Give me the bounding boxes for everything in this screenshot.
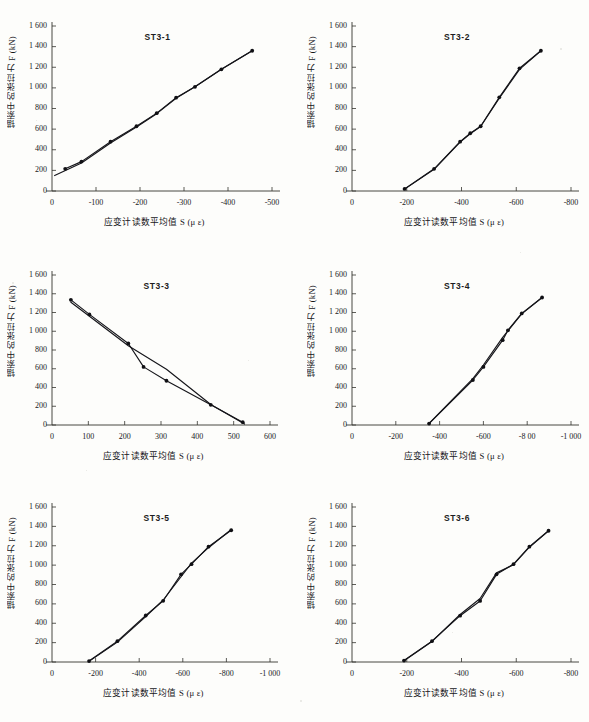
data-point-marker xyxy=(539,49,543,53)
data-point-marker xyxy=(458,140,462,144)
scan-speckle xyxy=(560,48,562,50)
data-point-marker xyxy=(497,95,501,99)
chart-panel-st3-2: 02004006008001 0001 2001 4001 6000-200-4… xyxy=(294,0,589,253)
data-point-marker xyxy=(209,403,213,407)
x-axis-label: 应变计读数平均值 S (μ ε) xyxy=(103,686,204,699)
data-point-marker xyxy=(540,296,544,300)
data-point-marker xyxy=(520,312,524,316)
scan-speckle xyxy=(86,470,87,471)
chart-cell-4: 02004006008001 0001 2001 4001 6000-200-4… xyxy=(0,481,294,722)
chart-cell-5: 02004006008001 0001 2001 4001 6000-200-4… xyxy=(294,481,589,722)
data-point-marker xyxy=(161,599,165,603)
data-point-marker xyxy=(518,66,522,70)
x-axis-label: 应变计读数平均值 S (μ ε) xyxy=(104,215,205,228)
y-axis-label: 锚索中的张拉力 F (kN) xyxy=(306,517,318,609)
chart-title: ST3-6 xyxy=(444,513,470,523)
chart-title: ST3-1 xyxy=(144,32,170,42)
data-point-marker xyxy=(250,49,254,53)
x-axis-label: 应变计读数平均值 S (μ ε) xyxy=(404,215,505,228)
data-point-marker xyxy=(87,659,91,663)
data-point-marker xyxy=(63,167,67,171)
chart-title: ST3-3 xyxy=(144,281,170,291)
data-point-marker xyxy=(142,365,146,369)
data-point-marker xyxy=(430,639,434,643)
chart-cell-2: 02004006008001 0001 2001 4001 6000100200… xyxy=(0,253,294,481)
scan-speckle xyxy=(402,208,403,209)
data-point-marker xyxy=(80,160,84,164)
data-point-marker xyxy=(547,529,551,533)
chart-panel-st3-1: 02004006008001 0001 2001 4001 6000-100-2… xyxy=(0,0,294,253)
data-series-line xyxy=(89,529,231,661)
chart-panel-st3-4: 02004006008001 0001 2001 4001 6000-200-4… xyxy=(294,253,589,481)
data-point-marker xyxy=(458,614,462,618)
data-point-marker xyxy=(144,614,148,618)
data-point-marker xyxy=(116,639,120,643)
data-point-marker xyxy=(402,659,406,663)
data-point-marker xyxy=(179,572,183,576)
data-point-marker xyxy=(135,124,139,128)
data-point-marker xyxy=(241,420,245,424)
chart-svg xyxy=(294,253,589,481)
data-point-marker xyxy=(468,131,472,135)
data-point-marker xyxy=(155,111,159,115)
data-point-marker xyxy=(527,545,531,549)
data-series-line xyxy=(429,298,542,424)
chart-panel-st3-5: 02004006008001 0001 2001 4001 6000-200-4… xyxy=(0,481,294,722)
data-point-marker xyxy=(69,298,73,302)
y-axis-label: 锚索中的张拉力 F (kN) xyxy=(6,36,18,128)
data-point-marker xyxy=(512,562,516,566)
data-series-line xyxy=(429,298,542,424)
data-series-line xyxy=(89,530,231,661)
scan-speckle xyxy=(12,282,14,284)
data-series-line xyxy=(405,51,541,189)
data-series-line xyxy=(65,51,252,169)
data-point-marker xyxy=(207,545,211,549)
data-point-marker xyxy=(471,378,475,382)
y-axis-label: 锚索中的张拉力 F (kN) xyxy=(6,285,18,377)
figure-panel-grid: 02004006008001 0001 2001 4001 6000-100-2… xyxy=(0,0,589,722)
data-point-marker xyxy=(165,379,169,383)
chart-panel-st3-6: 02004006008001 0001 2001 4001 6000-200-4… xyxy=(294,481,589,722)
scan-speckle xyxy=(36,120,37,121)
scan-speckle xyxy=(452,632,453,633)
data-point-marker xyxy=(403,187,407,191)
y-axis-label: 锚索中的张拉力 F (kN) xyxy=(306,285,318,377)
data-point-marker xyxy=(190,562,194,566)
chart-panel-st3-3: 02004006008001 0001 2001 4001 6000100200… xyxy=(0,253,294,481)
scan-speckle xyxy=(300,700,302,702)
data-point-marker xyxy=(427,422,431,426)
chart-cell-1: 02004006008001 0001 2001 4001 6000-200-4… xyxy=(294,0,589,253)
chart-title: ST3-2 xyxy=(444,32,470,42)
data-series-line xyxy=(404,531,549,661)
data-series-line xyxy=(71,300,243,422)
chart-title: ST3-5 xyxy=(144,513,170,523)
data-point-marker xyxy=(193,85,197,89)
chart-cell-3: 02004006008001 0001 2001 4001 6000-200-4… xyxy=(294,253,589,481)
data-point-marker xyxy=(229,528,233,532)
y-axis-label: 锚索中的张拉力 F (kN) xyxy=(306,36,318,128)
chart-title: ST3-4 xyxy=(444,281,470,291)
data-point-marker xyxy=(126,342,130,346)
data-point-marker xyxy=(495,572,499,576)
y-axis-label: 锚索中的张拉力 F (kN) xyxy=(6,517,18,609)
data-series-line xyxy=(405,51,541,189)
x-axis-label: 应变计读数平均值 S (μ ε) xyxy=(404,686,505,699)
scan-speckle xyxy=(520,252,521,253)
scan-speckle xyxy=(248,360,249,361)
data-point-marker xyxy=(432,167,436,171)
data-point-marker xyxy=(506,328,510,332)
data-point-marker xyxy=(479,124,483,128)
data-point-marker xyxy=(478,599,482,603)
scan-speckle xyxy=(160,690,162,692)
data-point-marker xyxy=(482,365,486,369)
data-point-marker xyxy=(109,140,113,144)
data-point-marker xyxy=(88,312,92,316)
x-axis-label: 应变计读数平均值 S (μ ε) xyxy=(404,449,505,462)
x-axis-label: 应变计读数平均值 S (μ ε) xyxy=(103,449,204,462)
data-point-marker xyxy=(220,67,224,71)
data-point-marker xyxy=(174,96,178,100)
data-point-marker xyxy=(501,338,505,342)
chart-cell-0: 02004006008001 0001 2001 4001 6000-100-2… xyxy=(0,0,294,253)
